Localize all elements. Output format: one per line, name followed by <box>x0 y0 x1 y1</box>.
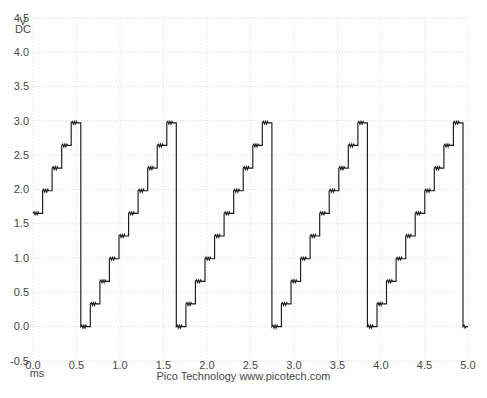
waveform-plot: 4.54.03.53.02.52.01.51.00.50.0-0.50.00.5… <box>0 0 487 398</box>
x-axis-tick-label: 2.5 <box>243 359 258 371</box>
x-axis-tick-label: 4.0 <box>373 359 388 371</box>
y-axis-tick-label: 0.5 <box>14 286 29 298</box>
y-axis-tick-label: 3.0 <box>14 115 29 127</box>
y-axis-tick-label: 0.0 <box>14 320 29 332</box>
picoscope-capture: 4.54.03.53.02.52.01.51.00.50.0-0.50.00.5… <box>0 0 487 398</box>
y-axis-tick-label: 4.0 <box>14 46 29 58</box>
x-axis-tick-label: 4.5 <box>417 359 432 371</box>
y-axis-tick-label: 1.5 <box>14 217 29 229</box>
y-axis-coupling-label: DC <box>10 24 36 35</box>
y-axis-tick-label: 2.0 <box>14 183 29 195</box>
y-axis-tick-label: 2.5 <box>14 149 29 161</box>
brand-footer-label: Pico Technology www.picotech.com <box>0 371 487 382</box>
x-axis-tick-label: 3.5 <box>330 359 345 371</box>
x-axis-tick-label: 0.5 <box>69 359 84 371</box>
y-axis-tick-label: 1.0 <box>14 252 29 264</box>
y-axis-tick-label: 3.5 <box>14 80 29 92</box>
x-axis-tick-label: 3.0 <box>286 359 301 371</box>
x-axis-tick-label: 1.0 <box>112 359 127 371</box>
x-axis-tick-label: 2.0 <box>199 359 214 371</box>
x-axis-tick-label: 5.0 <box>460 359 475 371</box>
x-axis-tick-label: 1.5 <box>156 359 171 371</box>
